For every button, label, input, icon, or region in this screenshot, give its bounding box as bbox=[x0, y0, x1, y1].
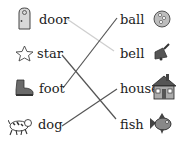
word-fish[interactable]: fish bbox=[120, 118, 144, 132]
boot-icon bbox=[13, 79, 34, 97]
word-star[interactable]: star bbox=[37, 47, 63, 61]
house-icon bbox=[151, 72, 177, 100]
word-ball[interactable]: ball bbox=[120, 13, 144, 27]
star-icon bbox=[15, 45, 34, 62]
door-icon bbox=[18, 7, 31, 30]
word-door[interactable]: door bbox=[39, 13, 69, 27]
line-star-fish[interactable] bbox=[62, 55, 116, 119]
word-bell[interactable]: bell bbox=[120, 47, 144, 61]
bell-icon bbox=[152, 42, 171, 62]
fish-icon bbox=[149, 112, 173, 135]
line-foot-ball[interactable] bbox=[63, 18, 117, 88]
word-foot[interactable]: foot bbox=[39, 82, 65, 96]
word-dog[interactable]: dog bbox=[38, 118, 62, 132]
dog-icon bbox=[8, 115, 33, 136]
ball-icon bbox=[153, 10, 171, 28]
line-door-bell[interactable] bbox=[67, 19, 114, 51]
line-dog-house[interactable] bbox=[62, 89, 117, 126]
